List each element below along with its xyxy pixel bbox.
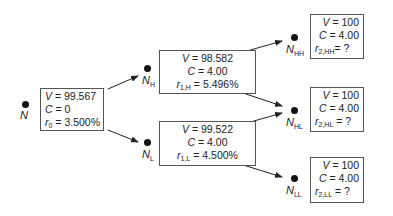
c-label: C	[187, 136, 195, 148]
node-label-text: N	[286, 116, 294, 128]
c-label: C	[319, 172, 327, 184]
r-value: = 4.500%	[193, 149, 238, 161]
node-label-ll: NLL	[286, 185, 302, 198]
c-value: = 4.00	[330, 172, 360, 184]
r-sub: 2,HL	[319, 121, 334, 128]
c-value: = 0	[56, 103, 71, 115]
v-label: V	[322, 16, 329, 28]
r-value: = ?	[336, 115, 351, 127]
node-label-sub: L	[150, 155, 154, 162]
v-value: = 100	[332, 89, 359, 101]
node-dot-hl	[291, 107, 298, 114]
coupon-row: C = 4.00	[164, 65, 251, 78]
c-label: C	[319, 29, 327, 41]
node-label-sub: H	[150, 81, 155, 88]
c-label: C	[319, 102, 327, 114]
r-value: = ?	[334, 42, 349, 54]
node-dot-root	[22, 101, 29, 108]
node-label-text: N	[20, 109, 28, 121]
node-label-text: N	[286, 43, 294, 55]
node-box-h: V = 98.582 C = 4.00 r1,H = 5.496%	[159, 50, 256, 94]
v-value: = 99.522	[192, 123, 233, 135]
rate-row: r1,H = 5.496%	[164, 78, 251, 94]
node-box-root: V = 99.567 C = 0 r0 = 3.500%	[40, 88, 104, 131]
node-label-sub: HH	[294, 50, 304, 57]
coupon-row: C = 4.00	[315, 29, 359, 42]
v-label: V	[182, 123, 189, 135]
value-row: V = 99.522	[164, 123, 251, 136]
edge-h-hl	[240, 92, 282, 106]
r-sub: 0	[49, 122, 53, 129]
r-sub: 2,LL	[319, 191, 333, 198]
edge-root-h	[108, 76, 138, 89]
c-value: = 4.00	[330, 29, 360, 41]
node-box-l: V = 99.522 C = 4.00 r1,L = 4.500%	[159, 121, 256, 166]
v-label: V	[182, 52, 189, 64]
node-box-hh: V = 100 C = 4.00 r2,HH= ?	[310, 14, 364, 59]
r-value: = 3.500%	[55, 116, 100, 128]
node-label-sub: HL	[294, 123, 303, 130]
coupon-row: C = 4.00	[315, 172, 359, 185]
v-label: V	[45, 90, 52, 102]
v-label: V	[322, 89, 329, 101]
rate-row: r0 = 3.500%	[45, 116, 99, 132]
value-row: V = 98.582	[164, 52, 251, 65]
r-sub: 1,H	[180, 84, 191, 91]
node-label-text: N	[142, 148, 150, 160]
value-row: V = 100	[315, 16, 359, 29]
c-value: = 4.00	[198, 136, 228, 148]
coupon-row: C = 4.00	[164, 136, 251, 149]
c-value: = 4.00	[330, 102, 360, 114]
node-label-text: N	[142, 74, 150, 86]
node-label-root: N	[20, 110, 28, 121]
c-value: = 4.00	[198, 65, 228, 77]
c-label: C	[45, 103, 53, 115]
v-value: = 99.567	[55, 90, 96, 102]
c-label: C	[187, 65, 195, 77]
r-value: = 5.496%	[194, 78, 239, 90]
rate-row: r2,LL = ?	[315, 185, 359, 201]
node-box-ll: V = 100 C = 4.00 r2,LL = ?	[310, 157, 364, 203]
edge-root-l	[108, 130, 138, 142]
node-label-h: NH	[142, 75, 155, 88]
r-value: = ?	[335, 185, 350, 197]
node-label-text: N	[286, 184, 294, 196]
node-dot-h	[144, 65, 151, 72]
v-value: = 100	[332, 159, 359, 171]
node-label-sub: LL	[294, 191, 302, 198]
v-value: = 100	[332, 16, 359, 28]
value-row: V = 100	[315, 159, 359, 172]
rate-row: r2,HL = ?	[315, 115, 359, 131]
node-dot-hh	[291, 34, 298, 41]
r-sub: 2,HH	[319, 48, 335, 55]
value-row: V = 99.567	[45, 90, 99, 103]
node-label-hl: NHL	[286, 117, 303, 130]
rate-row: r2,HH= ?	[315, 42, 359, 58]
rate-row: r1,L = 4.500%	[164, 149, 251, 165]
node-label-hh: NHH	[286, 44, 304, 57]
r-sub: 1,L	[181, 155, 191, 162]
node-dot-ll	[291, 175, 298, 182]
node-box-hl: V = 100 C = 4.00 r2,HL = ?	[310, 87, 364, 132]
node-dot-l	[144, 139, 151, 146]
value-row: V = 100	[315, 89, 359, 102]
coupon-row: C = 0	[45, 103, 99, 116]
v-value: = 98.582	[192, 52, 233, 64]
v-label: V	[322, 159, 329, 171]
coupon-row: C = 4.00	[315, 102, 359, 115]
node-label-l: NL	[142, 149, 154, 162]
